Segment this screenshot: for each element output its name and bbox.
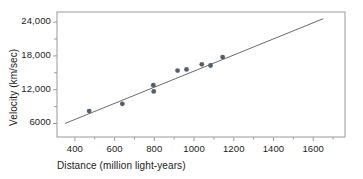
x-tick-label: 1200 <box>214 143 254 154</box>
x-tick-label: 400 <box>55 143 95 154</box>
data-point <box>199 62 204 67</box>
y-tick-label: 6000 <box>29 116 51 127</box>
scatter-plot-figure: Velocity (km/sec) Distance (million ligh… <box>0 0 363 179</box>
data-point <box>120 101 125 106</box>
x-tick-label: 1000 <box>174 143 214 154</box>
y-tick-label: 18,000 <box>21 49 51 60</box>
data-point <box>175 68 180 73</box>
data-point <box>184 67 189 72</box>
y-tick-label: 24,000 <box>21 15 51 26</box>
x-tick-label: 800 <box>134 143 174 154</box>
data-point <box>151 83 156 88</box>
x-tick-label: 1400 <box>253 143 293 154</box>
data-point <box>220 55 225 60</box>
plot-frame <box>57 12 345 137</box>
regression-line <box>65 19 323 124</box>
y-axis-title: Velocity (km/sec) <box>8 49 19 126</box>
x-axis-title: Distance (million light-years) <box>57 160 186 171</box>
y-tick-label: 12,000 <box>21 83 51 94</box>
data-point <box>87 109 92 114</box>
x-tick-label: 600 <box>95 143 135 154</box>
data-point <box>208 63 213 68</box>
data-point <box>151 89 156 94</box>
x-tick-label: 1600 <box>293 143 333 154</box>
